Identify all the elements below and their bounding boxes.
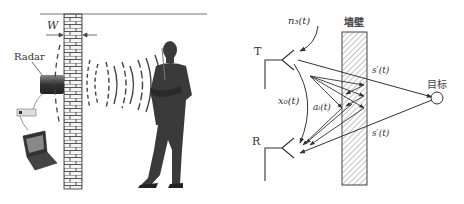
signal-model-schematic — [0, 0, 464, 204]
target-return-label: s′(t) — [372, 129, 389, 138]
transmitter-label: T — [254, 46, 261, 57]
direct-coupling-label: x₀(t) — [278, 96, 299, 106]
wall-label: 墙壁 — [344, 18, 364, 28]
noise-arrow — [300, 26, 318, 51]
transmitter-antenna — [265, 50, 294, 89]
target-label: 目标 — [427, 80, 447, 90]
target-circle — [431, 92, 443, 104]
target-forward-label: s′(t) — [372, 66, 389, 75]
wall-reflection-label: aᵢ(t) — [313, 103, 331, 112]
diagram-canvas: W Radar — [0, 0, 464, 204]
receiver-antenna — [265, 138, 294, 181]
receiver-label: R — [252, 136, 260, 147]
noise-signal-label: n₃(t) — [288, 16, 310, 26]
